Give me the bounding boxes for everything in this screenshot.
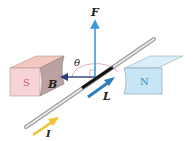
south-pole-label: S xyxy=(23,77,30,88)
theta-label: θ xyxy=(74,57,80,68)
north-pole-label: N xyxy=(140,76,149,87)
field-label: B xyxy=(47,78,57,91)
north-magnet: N xyxy=(124,56,183,94)
length-label: L xyxy=(102,90,111,103)
north-magnet-top xyxy=(125,56,183,68)
force-label: F xyxy=(90,6,100,19)
magnetic-force-diagram: N S θ F B L I xyxy=(0,0,196,141)
current-label: I xyxy=(45,128,51,139)
